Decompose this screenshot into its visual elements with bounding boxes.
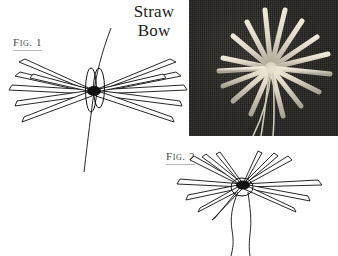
figure-2-threads: [231, 192, 251, 256]
straw-bow-photo: [189, 0, 338, 136]
page-title-line-1: Straw: [118, 2, 190, 21]
figure-1-knot: [87, 86, 101, 96]
straw-bow-page: Straw Bow Fig. 1 Fig. 2: [0, 0, 338, 256]
photo-knot: [265, 62, 277, 74]
figure-2-drawing: [170, 150, 338, 256]
figure-2-knot: [236, 181, 250, 190]
photo-straws: [189, 0, 338, 136]
figure-1-drawing: [0, 28, 190, 173]
